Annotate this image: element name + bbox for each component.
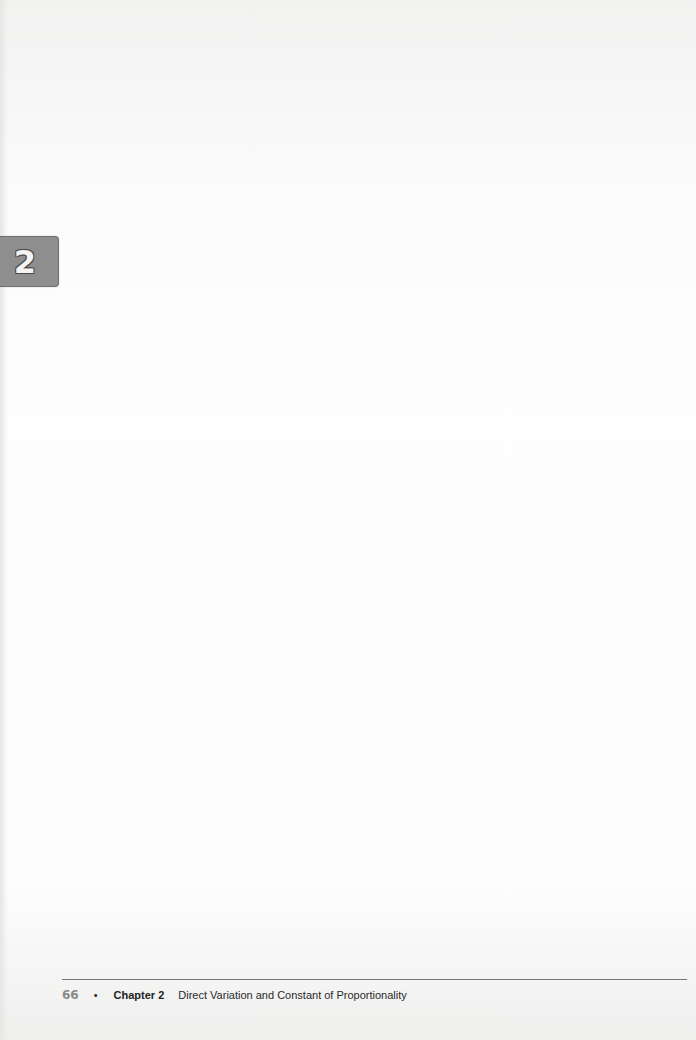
page-number: 66: [62, 988, 79, 1002]
chapter-title: Direct Variation and Constant of Proport…: [178, 989, 406, 1001]
book-page: 2 66 • Chapter 2 Direct Variation and Co…: [0, 0, 696, 1040]
chapter-tab-number: 2: [14, 246, 36, 278]
chapter-label: Chapter 2: [114, 989, 165, 1001]
chapter-tab: 2: [0, 236, 59, 287]
page-footer: 66 • Chapter 2 Direct Variation and Cons…: [62, 988, 407, 1002]
footer-divider: [62, 979, 687, 980]
bullet-separator-icon: •: [94, 989, 98, 1001]
page-edge-shadow: [0, 0, 8, 1040]
